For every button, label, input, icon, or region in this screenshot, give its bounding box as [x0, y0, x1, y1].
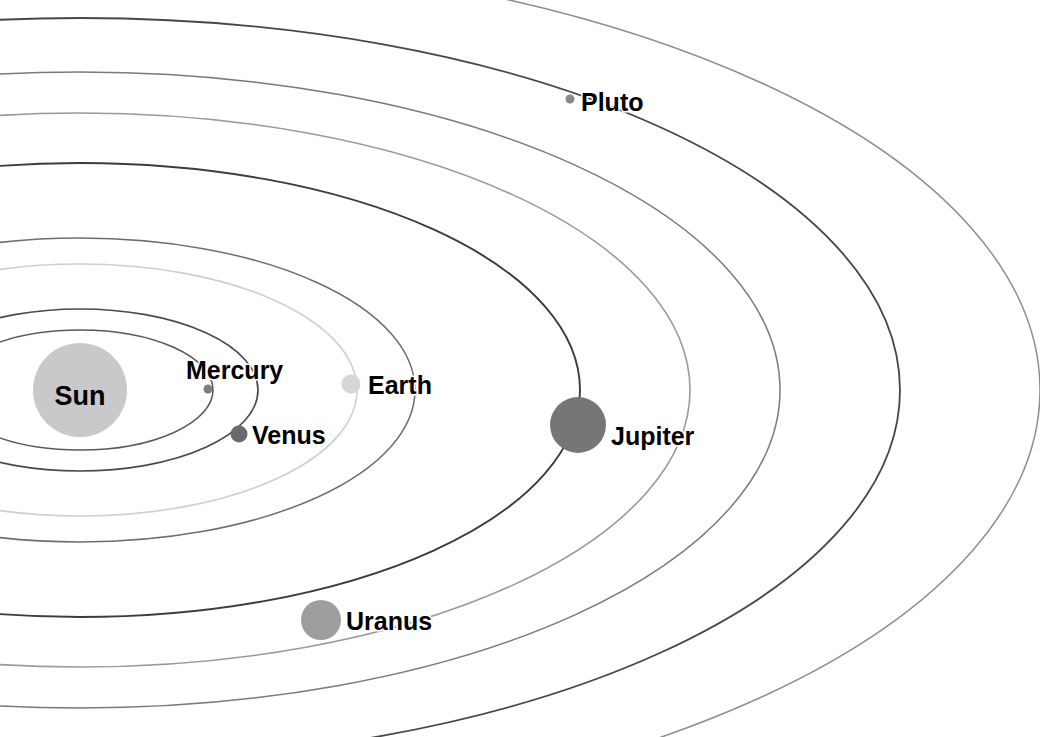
neptune-orbit — [0, 18, 900, 737]
venus-marker[interactable]: Venus — [231, 421, 326, 449]
uranus-disc[interactable] — [301, 600, 341, 640]
venus-disc[interactable] — [231, 426, 248, 443]
pluto-orbit — [0, 0, 1040, 737]
solar-system-canvas: Sun MercuryVenusEarthJupiterUranusPluto — [0, 0, 1040, 737]
mercury-disc[interactable] — [204, 385, 213, 394]
jupiter-label: Jupiter — [611, 422, 695, 450]
orbits-group — [0, 0, 1040, 737]
venus-label: Venus — [252, 421, 326, 449]
mercury-marker[interactable]: Mercury — [186, 356, 283, 394]
uranus-marker[interactable]: Uranus — [301, 600, 432, 640]
uranus-label: Uranus — [346, 607, 432, 635]
pluto-marker[interactable]: Pluto — [566, 88, 644, 116]
pluto-disc[interactable] — [566, 95, 575, 104]
sun-label: Sun — [55, 381, 106, 411]
sun-group[interactable]: Sun — [33, 343, 127, 437]
planets-group: MercuryVenusEarthJupiterUranusPluto — [186, 88, 695, 640]
jupiter-marker[interactable]: Jupiter — [550, 397, 695, 453]
jupiter-disc[interactable] — [550, 397, 606, 453]
earth-disc[interactable] — [342, 375, 361, 394]
pluto-label: Pluto — [581, 88, 644, 116]
solar-system-diagram: Sun MercuryVenusEarthJupiterUranusPluto — [0, 0, 1040, 737]
mercury-label: Mercury — [186, 356, 283, 384]
earth-label: Earth — [368, 371, 432, 399]
